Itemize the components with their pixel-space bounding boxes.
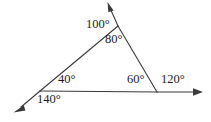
geometry-figure: 100° 80° 40° 140° 60° 120° [0,0,211,122]
angle-label-exterior-apex-left: 100° [86,18,110,31]
angle-label-interior-right: 60° [127,73,145,86]
angle-label-exterior-right: 120° [161,73,185,86]
angle-label-interior-apex: 80° [105,33,123,46]
angle-label-exterior-left-below: 140° [37,93,61,106]
angle-label-interior-left: 40° [58,73,76,86]
top-arrowhead [108,2,114,12]
lower-left-arrowhead [14,105,26,112]
right-arrowhead [193,88,203,95]
